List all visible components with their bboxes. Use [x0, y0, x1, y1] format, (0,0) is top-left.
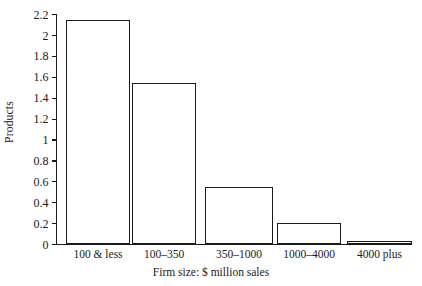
x-axis-title: Firm size: $ million sales [0, 267, 422, 279]
x-axis-line [56, 244, 412, 245]
y-axis-tick-label: 0 [43, 239, 49, 251]
bar [277, 223, 341, 244]
y-axis-tick: 0 [52, 244, 57, 245]
y-axis-tick-label: 1.4 [34, 92, 49, 104]
x-axis-category-label: 100 & less [66, 249, 130, 261]
plot-area: 00.20.40.60.811.21.41.61.822.2 [56, 14, 412, 244]
y-axis-tick-label: 1.8 [34, 50, 49, 62]
y-axis-title-text: Products [3, 101, 15, 143]
bar-chart: Products 00.20.40.60.811.21.41.61.822.2 … [0, 0, 422, 286]
y-axis-tick: 1.8 [52, 56, 57, 57]
y-axis-tick: 0.8 [52, 160, 57, 161]
y-axis-line [56, 14, 57, 244]
y-axis-tick: 0.4 [52, 202, 57, 203]
x-axis-category-label: 4000 plus [347, 249, 412, 261]
y-axis-tick: 0.6 [52, 181, 57, 182]
y-axis-title: Products [0, 0, 18, 244]
x-axis-category-labels: 100 & less100–350350–10001000–40004000 p… [56, 249, 412, 265]
y-axis-tick-label: 1 [43, 134, 49, 146]
x-axis-category-label: 350–1000 [205, 249, 273, 261]
y-axis-tick: 1.6 [52, 77, 57, 78]
y-axis-tick: 1.2 [52, 119, 57, 120]
bar [132, 83, 196, 244]
y-axis-tick-label: 0.6 [34, 176, 49, 188]
y-axis-tick-label: 0.2 [34, 218, 49, 230]
x-axis-category-label: 100–350 [132, 249, 196, 261]
y-axis-tick: 1.4 [52, 98, 57, 99]
y-axis-tick: 2.2 [52, 14, 57, 15]
y-axis-tick-label: 1.2 [34, 113, 49, 125]
y-axis-tick-label: 2.2 [34, 9, 49, 21]
bar [347, 241, 412, 244]
y-axis-tick: 2 [52, 35, 57, 36]
y-axis-tick-label: 0.8 [34, 155, 49, 167]
bar [205, 187, 273, 244]
bar [66, 20, 130, 244]
y-axis-tick-label: 1.6 [34, 71, 49, 83]
x-axis-category-label: 1000–4000 [277, 249, 341, 261]
y-axis-tick-label: 2 [43, 30, 49, 42]
y-axis-tick-label: 0.4 [34, 197, 49, 209]
y-axis-tick: 0.2 [52, 223, 57, 224]
y-axis-tick: 1 [52, 139, 57, 140]
